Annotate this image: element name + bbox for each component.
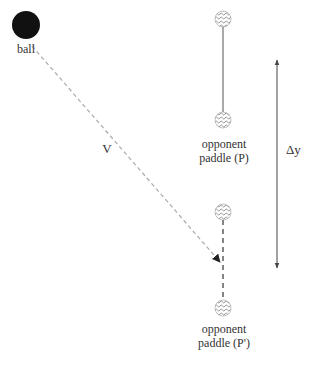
paddle-p-label-line1: opponent xyxy=(188,137,260,151)
paddle-p-top-end xyxy=(215,11,231,27)
ball xyxy=(12,11,40,39)
paddle-p-prime-bottom-end xyxy=(215,300,231,316)
paddle-p-label-line2: paddle (P) xyxy=(188,151,260,165)
paddle-p-prime-label-line1: opponent xyxy=(188,322,260,336)
delta-y-label: Δy xyxy=(286,143,310,157)
ball-label: ball xyxy=(10,42,42,56)
paddle-p-bottom-end xyxy=(215,112,231,128)
paddle-p-label: opponent paddle (P) xyxy=(188,137,260,165)
paddle-p-prime-label-line2: paddle (P') xyxy=(188,336,260,350)
paddle-p-prime-label: opponent paddle (P') xyxy=(188,322,260,350)
velocity-label: V xyxy=(100,142,114,156)
diagram-canvas xyxy=(0,0,316,366)
paddle-p-prime-top-end xyxy=(215,204,231,220)
